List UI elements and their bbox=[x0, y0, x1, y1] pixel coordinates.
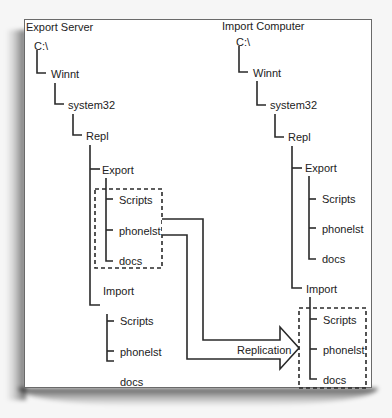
right-node-root[interactable]: C:\ bbox=[236, 36, 250, 48]
left-tree-lines bbox=[37, 50, 114, 361]
right-export-scripts[interactable]: Scripts bbox=[322, 193, 356, 205]
right-export-docs[interactable]: docs bbox=[322, 253, 345, 265]
right-panel-title: Import Computer bbox=[222, 20, 305, 32]
replication-label: Replication bbox=[237, 344, 291, 356]
left-node-repl[interactable]: Repl bbox=[86, 130, 109, 142]
right-node-export[interactable]: Export bbox=[305, 162, 337, 174]
right-node-repl[interactable]: Repl bbox=[288, 131, 311, 143]
left-panel-title: Export Server bbox=[26, 21, 93, 33]
left-export-scripts[interactable]: Scripts bbox=[119, 194, 153, 206]
right-export-phonelst[interactable]: phonelst bbox=[322, 223, 364, 235]
left-node-winnt[interactable]: Winnt bbox=[51, 68, 79, 80]
left-export-phonelst[interactable]: phonelst bbox=[119, 225, 161, 237]
right-node-import[interactable]: Import bbox=[306, 283, 337, 295]
left-export-docs[interactable]: docs bbox=[119, 255, 142, 267]
right-node-winnt[interactable]: Winnt bbox=[253, 67, 281, 79]
left-import-scripts[interactable]: Scripts bbox=[120, 315, 154, 327]
right-import-docs[interactable]: docs bbox=[323, 374, 346, 386]
left-import-phonelst[interactable]: phonelst bbox=[120, 346, 162, 358]
left-import-docs[interactable]: docs bbox=[120, 376, 143, 388]
left-node-system32[interactable]: system32 bbox=[68, 99, 115, 111]
right-import-scripts[interactable]: Scripts bbox=[323, 314, 357, 326]
right-tree-lines bbox=[239, 46, 317, 379]
left-node-export[interactable]: Export bbox=[102, 164, 134, 176]
left-node-import[interactable]: Import bbox=[103, 285, 134, 297]
right-import-phonelst[interactable]: phonelst bbox=[323, 344, 365, 356]
left-node-root[interactable]: C:\ bbox=[34, 40, 48, 52]
right-node-system32[interactable]: system32 bbox=[270, 99, 317, 111]
